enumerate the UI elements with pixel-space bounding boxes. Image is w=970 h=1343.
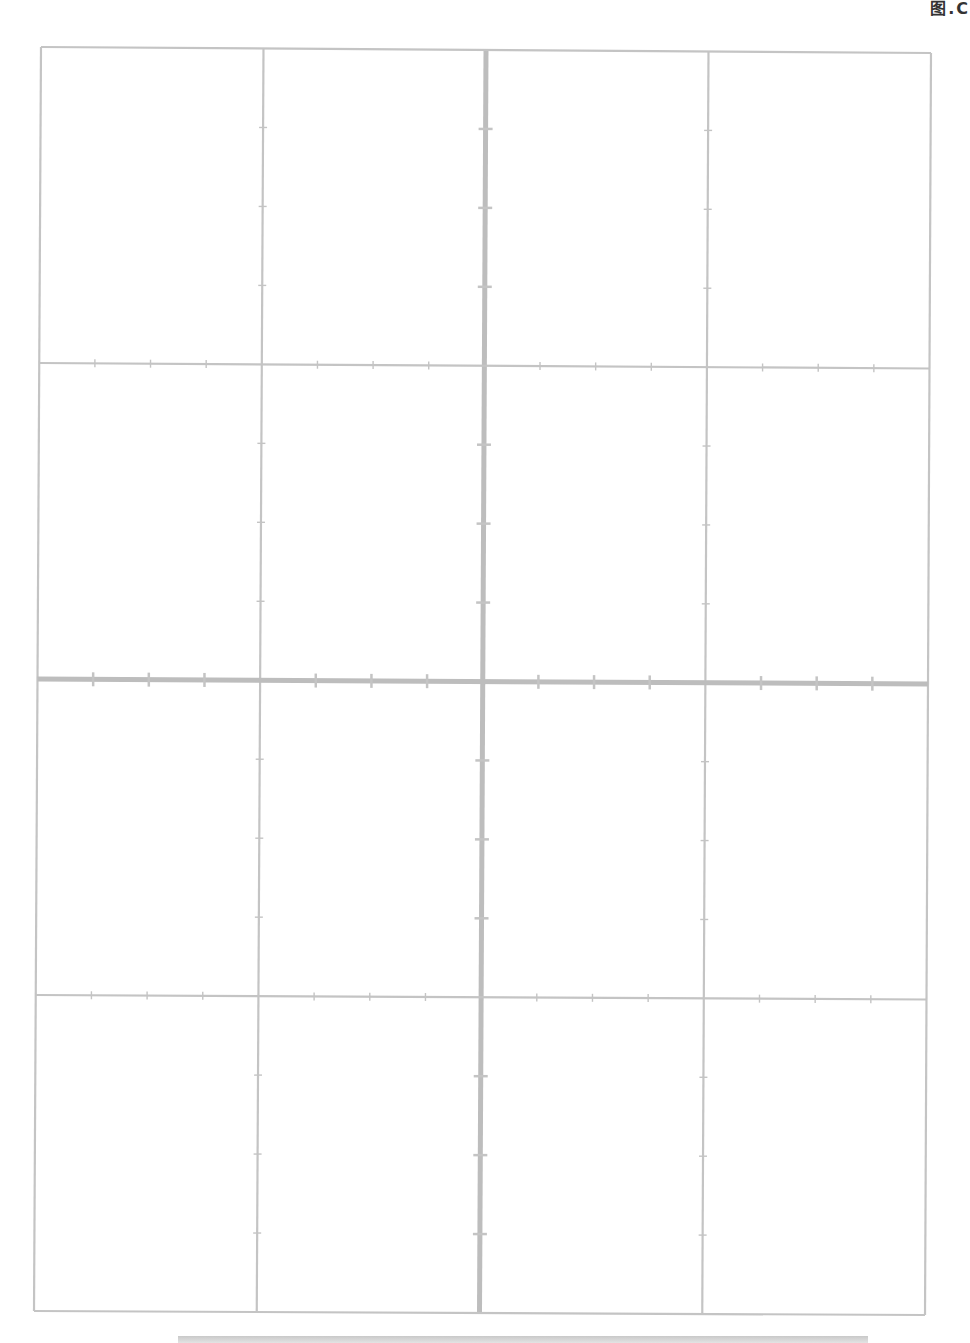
bottom-edge-bar [178, 1336, 868, 1343]
grid-sheet [0, 0, 970, 1343]
center-horizontal-line [38, 679, 929, 684]
